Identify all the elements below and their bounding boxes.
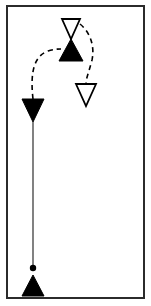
- figure-panel: Trajectory diagram with triangular marke…: [0, 0, 151, 306]
- origin-dot-icon: [30, 265, 36, 271]
- canvas-background: [0, 0, 151, 306]
- diagram-canvas: [0, 0, 151, 306]
